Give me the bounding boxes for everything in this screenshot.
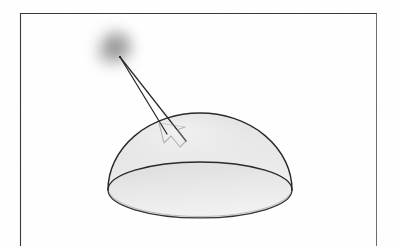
- figure-root: Hemisphere lit by a diffuse light source: [0, 0, 398, 246]
- diagram-canvas: [0, 0, 398, 246]
- light-source-wisp: [95, 45, 115, 65]
- light-source-blob: [85, 18, 145, 78]
- ray-origin-point: [119, 56, 121, 58]
